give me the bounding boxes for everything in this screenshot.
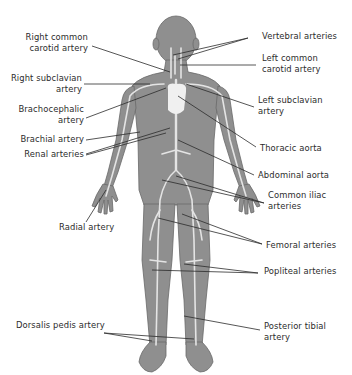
label-left-common-carotid-artery: Left common carotid artery	[262, 53, 321, 75]
label-dorsalis-pedis-artery: Dorsalis pedis artery	[16, 320, 105, 331]
label-brachocephalic-artery: Brachocephalic artery	[4, 104, 84, 126]
label-radial-artery: Radial artery	[59, 222, 114, 233]
label-left-subclavian-artery: Left subclavian artery	[258, 95, 323, 117]
label-posterior-tibial-artery: Posterior tibial artery	[264, 321, 326, 343]
heart	[168, 84, 187, 114]
label-right-common-carotid-artery: Right common carotid artery	[8, 32, 88, 54]
label-femoral-arteries: Femoral arteries	[266, 240, 336, 251]
arteries-diagram: Right common carotid artery Right subcla…	[0, 0, 352, 375]
label-popliteal-arteries: Popliteal arteries	[264, 266, 337, 277]
label-thoracic-aorta: Thoracic aorta	[260, 143, 322, 154]
label-common-iliac-arteries: Common iliac arteries	[268, 190, 326, 212]
label-brachial-artery: Brachial artery	[4, 134, 84, 145]
label-vertebral-arteries: Vertebral arteries	[262, 31, 337, 42]
label-renal-arteries: Renal arteries	[4, 149, 84, 160]
label-right-subclavian-artery: Right subclavian artery	[2, 73, 82, 95]
label-abdominal-aorta: Abdominal aorta	[258, 170, 329, 181]
